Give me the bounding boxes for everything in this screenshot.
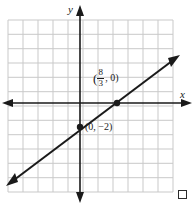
- label-tail: , 0): [105, 73, 118, 83]
- graph-figure: y x ( 8 3 , 0) (0, −2): [0, 0, 194, 207]
- x-axis-label: x: [180, 89, 185, 100]
- fraction-eight-thirds: 8 3: [97, 68, 104, 88]
- checkbox-icon[interactable]: [178, 190, 187, 199]
- fraction-denominator: 3: [98, 79, 105, 88]
- point-y-intercept: [77, 124, 83, 130]
- x-intercept-label: ( 8 3 , 0): [93, 68, 119, 88]
- coordinate-plane: [0, 0, 194, 207]
- y-axis-label: y: [68, 4, 73, 15]
- fraction-numerator: 8: [98, 68, 105, 77]
- point-x-intercept: [114, 100, 120, 106]
- y-intercept-label: (0, −2): [85, 122, 112, 132]
